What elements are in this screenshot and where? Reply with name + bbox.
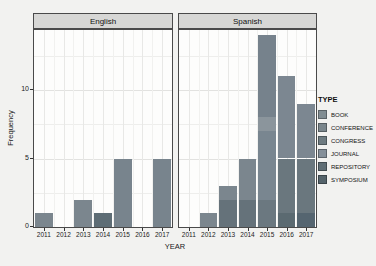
gridline-vertical-minor (54, 30, 55, 227)
legend-entry-label: SYMPOSIUM (331, 177, 368, 183)
y-tick-label: 10 (9, 85, 29, 92)
legend-swatch-icon (318, 162, 327, 171)
gridline-vertical (189, 30, 190, 227)
legend-swatch-icon (318, 149, 327, 158)
bar-segment (35, 213, 53, 227)
bar-segment (219, 200, 237, 227)
y-tick-mark (30, 158, 33, 159)
y-tick-mark (30, 89, 33, 90)
y-tick-mark (30, 226, 33, 227)
bar-segment (297, 159, 315, 214)
bar-segment (74, 200, 92, 227)
legend-entry: SYMPOSIUM (318, 173, 376, 186)
legend-entry-label: BOOK (331, 112, 348, 118)
gridline-vertical (142, 30, 143, 227)
panel-spanish (178, 29, 317, 228)
legend-swatch-icon (318, 110, 327, 119)
bar-segment (219, 186, 237, 200)
faceted-bar-chart: Frequency YEAR English Spanish 0510 2011… (0, 0, 376, 266)
bar-segment (258, 35, 276, 117)
legend-swatch-icon (318, 175, 327, 184)
bar-segment (258, 131, 276, 200)
panel-english (33, 29, 173, 228)
bar-segment (114, 159, 132, 228)
gridline-vertical (44, 30, 45, 227)
legend-entry: BOOK (318, 108, 376, 121)
gridline-vertical-minor (93, 30, 94, 227)
facet-strip-spanish-label: Spanish (233, 17, 262, 26)
gridline-vertical (64, 30, 65, 227)
x-tick-label: 2017 (149, 231, 175, 238)
legend-entry: CONGRESS (318, 134, 376, 147)
y-tick-label: 0 (9, 222, 29, 229)
y-tick-label: 5 (9, 154, 29, 161)
legend-entry-label: REPOSITORY (331, 164, 370, 170)
legend-swatch-icon (318, 123, 327, 132)
y-axis-title: Frequency (6, 110, 15, 145)
bar-segment (278, 76, 296, 158)
gridline-vertical (208, 30, 209, 227)
legend-entry: JOURNAL (318, 147, 376, 160)
legend-entry: CONFERENCE (318, 121, 376, 134)
facet-strip-spanish: Spanish (178, 13, 317, 29)
bar-segment (94, 213, 112, 227)
gridline-vertical-minor (73, 30, 74, 227)
legend-entry-label: CONGRESS (331, 138, 365, 144)
facet-strip-english: English (33, 13, 173, 29)
bar-segment (153, 159, 171, 228)
gridline-vertical-minor (199, 30, 200, 227)
bar-segment (258, 117, 276, 131)
gridline-vertical (83, 30, 84, 227)
bar-segment (278, 159, 296, 214)
x-tick-label: 2017 (293, 231, 319, 238)
bar-segment (239, 159, 257, 200)
bar-segment (297, 104, 315, 159)
bar-segment (258, 200, 276, 227)
bar-segment (297, 213, 315, 227)
bar-segment (278, 213, 296, 227)
legend-entry: REPOSITORY (318, 160, 376, 173)
legend-entry-label: JOURNAL (331, 151, 359, 157)
bar-segment (239, 200, 257, 227)
facet-strip-english-label: English (90, 17, 116, 26)
x-axis-title: YEAR (165, 242, 185, 251)
legend: TYPE BOOKCONFERENCECONGRESSJOURNALREPOSI… (318, 95, 376, 186)
legend-swatch-icon (318, 136, 327, 145)
legend-title: TYPE (318, 95, 376, 104)
gridline-vertical-minor (133, 30, 134, 227)
bar-segment (200, 213, 218, 227)
legend-entry-label: CONFERENCE (331, 125, 373, 131)
gridline-vertical (103, 30, 104, 227)
